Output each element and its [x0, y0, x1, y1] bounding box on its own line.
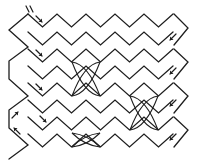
- arrow-icon-down-right: [36, 84, 42, 90]
- lens-3-curve-3: [130, 96, 158, 130]
- left-edge-zigzag: [9, 14, 28, 159]
- right-edge-diamond-4: [174, 117, 188, 147]
- arrow-icon-down-right: [36, 50, 42, 56]
- zigzag-line-4: [28, 66, 173, 79]
- lens-2-curve-1: [72, 133, 100, 147]
- zigzag-rows: [28, 14, 173, 147]
- lens-1-curve-3: [72, 62, 100, 96]
- lens-1-curve-2: [72, 62, 100, 96]
- arrow-icon-up-right: [12, 112, 18, 118]
- arrow-icon-down-left: [170, 100, 176, 106]
- zigzag-line-2: [28, 32, 173, 45]
- arrow-icon-down-left: [170, 134, 176, 140]
- edge-connectors: [9, 6, 188, 159]
- arrow-icon-down-right: [36, 16, 42, 22]
- right-edge-diamond-2: [174, 49, 188, 79]
- lens-2-curve-3: [72, 133, 100, 147]
- arrow-icon-down-left: [170, 68, 176, 74]
- diagram-canvas: [0, 0, 206, 160]
- lens-3-curve-1: [130, 96, 158, 130]
- direction-arrows: [12, 16, 176, 140]
- zigzag-line-3: [28, 49, 173, 62]
- start-tick-icon: [26, 6, 33, 12]
- lens-2-curve-2: [72, 133, 100, 147]
- zigzag-line-8: [28, 134, 173, 147]
- zigzag-line-1: [28, 14, 173, 27]
- lens-1-curve-4: [72, 62, 100, 96]
- zigzag-lattice-diagram: [0, 0, 206, 160]
- arrow-icon-down-right: [40, 116, 46, 122]
- zigzag-line-5: [28, 83, 173, 96]
- lens-3-curve-2: [130, 96, 158, 130]
- lens-2-curve-4: [72, 133, 100, 147]
- lens-1-curve-1: [72, 62, 100, 96]
- arrow-icon-down-left: [170, 34, 176, 40]
- right-edge-diamond-3: [174, 83, 188, 113]
- lens-3-curve-4: [130, 96, 158, 130]
- right-edge-diamond-1: [174, 14, 188, 45]
